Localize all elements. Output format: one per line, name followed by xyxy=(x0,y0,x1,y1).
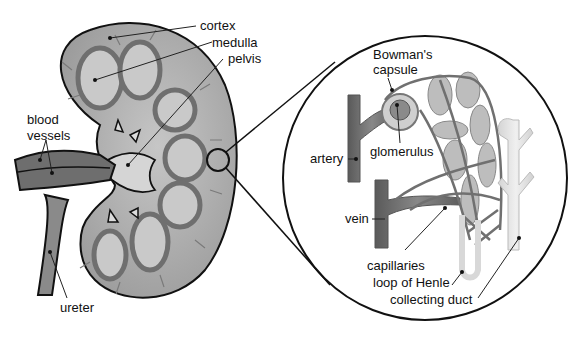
ureter xyxy=(38,195,68,295)
label-bowmans-capsule-1: Bowman's xyxy=(373,47,433,62)
glomerulus-shape xyxy=(390,100,410,120)
label-collecting-duct: collecting duct xyxy=(390,292,473,307)
label-vein: vein xyxy=(345,211,369,226)
label-ureter: ureter xyxy=(60,300,95,315)
label-glomerulus: glomerulus xyxy=(370,144,434,159)
label-blood-vessels-1: blood xyxy=(27,112,59,127)
kidney-diagram: cortex medulla pelvis blood vessels uret… xyxy=(0,0,579,337)
label-bowmans-capsule-2: capsule xyxy=(373,62,418,77)
label-cortex: cortex xyxy=(200,18,236,33)
label-artery: artery xyxy=(310,151,344,166)
label-loop-of-henle: loop of Henle xyxy=(373,275,450,290)
bowmans-capsule xyxy=(382,94,418,130)
kidney xyxy=(15,23,237,298)
label-blood-vessels-2: vessels xyxy=(27,128,71,143)
label-medulla: medulla xyxy=(212,35,258,50)
label-capillaries: capillaries xyxy=(367,258,425,273)
label-pelvis: pelvis xyxy=(228,51,262,66)
